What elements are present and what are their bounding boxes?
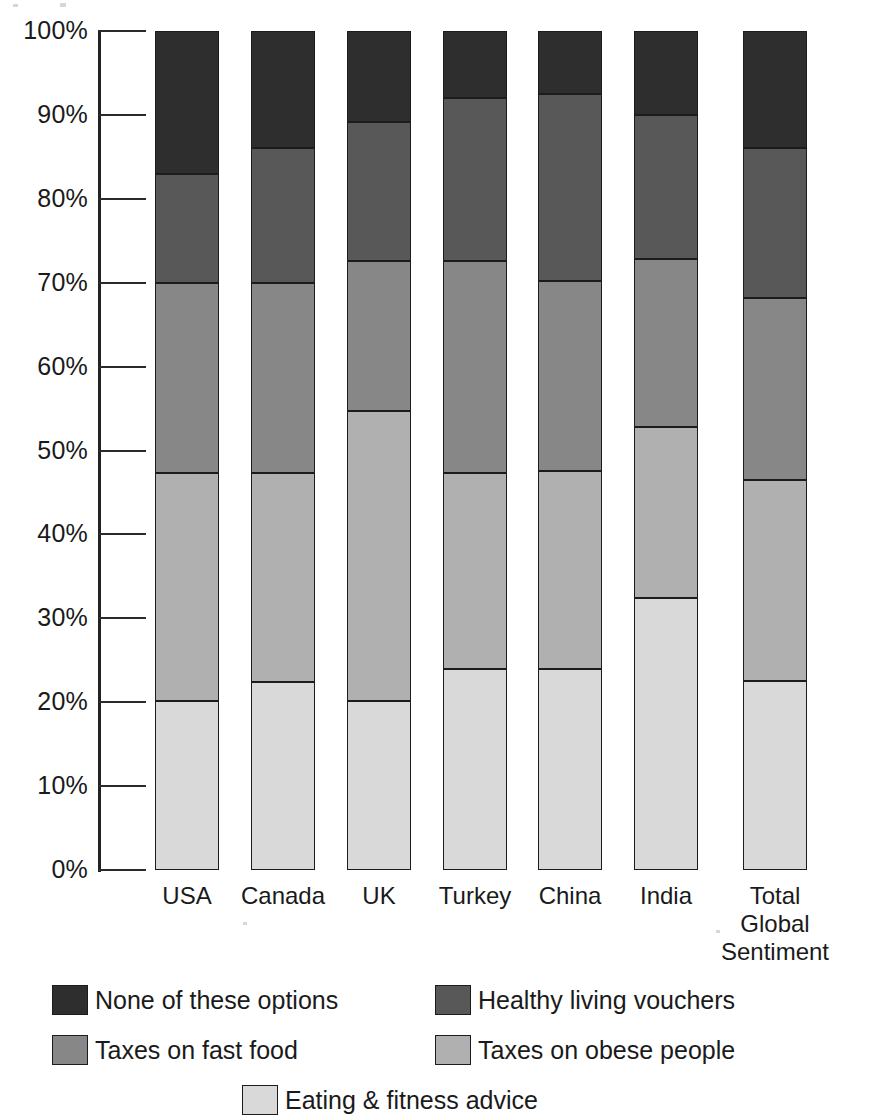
bar-total-global-sentiment [743, 31, 807, 870]
x-axis-label-line: Sentiment [715, 938, 835, 966]
bar-segment [155, 283, 219, 473]
legend-label: Healthy living vouchers [478, 985, 735, 1015]
legend-swatch-icon [435, 1035, 471, 1065]
bar-segment [155, 473, 219, 700]
legend-swatch-icon [52, 985, 88, 1015]
bar-segment [538, 94, 602, 281]
legend-item[interactable]: Taxes on fast food [52, 1035, 298, 1065]
bar-segment [251, 31, 315, 148]
bar-segment [347, 122, 411, 261]
bar-usa [155, 31, 219, 870]
bar-segment [634, 427, 698, 598]
plot-area: 100%90%80%70%60%50%40%30%20%10%0% [0, 0, 869, 880]
legend-item[interactable]: None of these options [52, 985, 338, 1015]
bar-segment [347, 411, 411, 700]
bar-segment [538, 281, 602, 471]
bar-segment [443, 261, 507, 473]
bar-segment [347, 31, 411, 122]
bar-segment [251, 473, 315, 682]
legend-swatch-icon [242, 1085, 278, 1115]
bar-segment [634, 115, 698, 259]
bar-segment [155, 174, 219, 283]
bar-china [538, 31, 602, 870]
bar-segment [743, 148, 807, 297]
bar-segment [743, 681, 807, 870]
scan-artifact [716, 930, 720, 933]
bar-segment [634, 259, 698, 427]
bar-segment [443, 31, 507, 98]
legend-swatch-icon [52, 1035, 88, 1065]
bar-segment [443, 473, 507, 668]
legend-label: None of these options [95, 985, 338, 1015]
x-axis-label: TotalGlobalSentiment [715, 882, 835, 966]
bar-segment [251, 283, 315, 473]
legend-label: Eating & fitness advice [285, 1085, 538, 1115]
legend-item[interactable]: Healthy living vouchers [435, 985, 735, 1015]
x-axis-label-line: Total [715, 882, 835, 910]
chart-legend: None of these optionsHealthy living vouc… [0, 985, 869, 1117]
bar-segment [443, 98, 507, 261]
legend-item[interactable]: Taxes on obese people [435, 1035, 735, 1065]
bar-canada [251, 31, 315, 870]
legend-item[interactable]: Eating & fitness advice [242, 1085, 538, 1115]
bar-segment [443, 669, 507, 870]
x-axis-category-labels: USACanadaUKTurkeyChinaIndiaTotalGlobalSe… [0, 882, 869, 982]
legend-label: Taxes on fast food [95, 1035, 298, 1065]
legend-swatch-icon [435, 985, 471, 1015]
legend-label: Taxes on obese people [478, 1035, 735, 1065]
bar-turkey [443, 31, 507, 870]
stacked-bar-chart: 100%90%80%70%60%50%40%30%20%10%0% USACan… [0, 0, 869, 1117]
bar-segment [347, 701, 411, 870]
scan-artifact [13, 4, 18, 7]
bar-segment [155, 31, 219, 174]
bar-uk [347, 31, 411, 870]
bar-segment [634, 31, 698, 115]
bar-segment [538, 31, 602, 94]
bar-segment [634, 598, 698, 870]
bar-segment [538, 471, 602, 668]
bar-group [0, 0, 869, 880]
scan-artifact [243, 922, 247, 925]
bar-segment [538, 669, 602, 870]
bar-segment [347, 261, 411, 411]
bar-india [634, 31, 698, 870]
scan-artifact [60, 3, 66, 7]
x-axis-label-line: India [606, 882, 726, 910]
bar-segment [743, 298, 807, 480]
bar-segment [155, 701, 219, 870]
bar-segment [743, 480, 807, 681]
bar-segment [743, 31, 807, 148]
bar-segment [251, 148, 315, 282]
x-axis-label-line: Global [715, 910, 835, 938]
x-axis-label: India [606, 882, 726, 910]
bar-segment [251, 682, 315, 870]
